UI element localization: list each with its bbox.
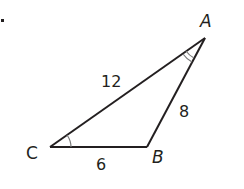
side-label-ca: 12 bbox=[101, 74, 121, 90]
angle-a-arc-inner bbox=[186, 51, 194, 58]
side-label-ab: 8 bbox=[179, 104, 189, 120]
triangle-diagram: A C B 12 8 6 bbox=[0, 0, 244, 189]
side-ca bbox=[50, 38, 205, 147]
bullet-dot bbox=[1, 19, 4, 22]
vertex-label-b: B bbox=[152, 149, 164, 166]
angle-c-arc bbox=[67, 135, 71, 147]
side-ab bbox=[147, 38, 205, 147]
vertex-label-c: C bbox=[26, 145, 38, 162]
vertex-label-a: A bbox=[200, 13, 212, 30]
side-label-cb: 6 bbox=[96, 157, 106, 173]
